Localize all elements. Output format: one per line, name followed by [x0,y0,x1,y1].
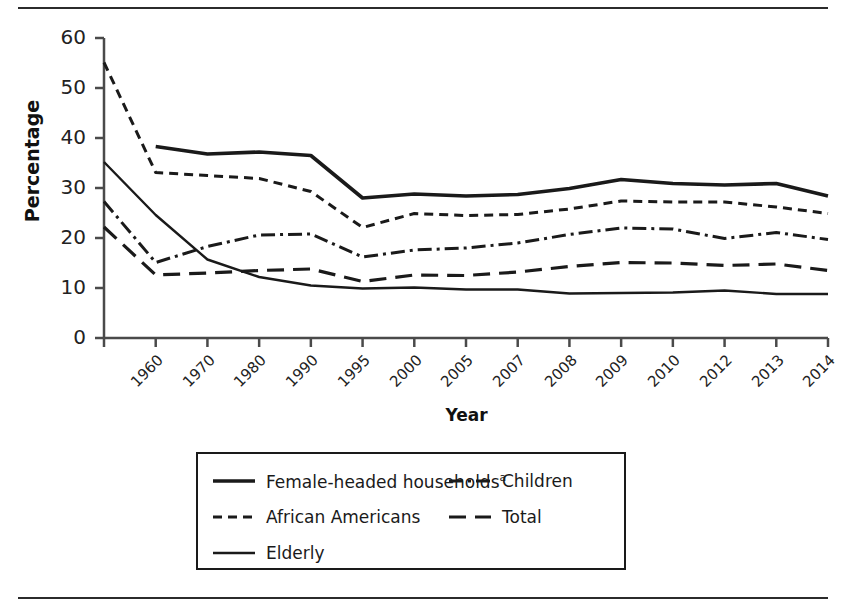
axis-layer [95,38,828,347]
series-layer [104,63,828,295]
legend-entry[interactable]: Children [448,468,573,494]
chart-legend: Female-headed householdsaAfrican America… [196,452,626,570]
legend-entry[interactable]: Elderly [212,540,325,566]
y-tick-label: 10 [46,277,86,297]
series-line-children [104,202,828,263]
y-tick-label: 50 [46,77,86,97]
legend-label: Total [502,507,542,527]
y-tick-label: 20 [46,227,86,247]
y-tick-label: 60 [46,27,86,47]
legend-swatch-dash-dot [448,472,492,490]
legend-label: Children [502,471,573,491]
legend-swatch-solid-thin [212,544,256,562]
line-chart-figure: Percentage Year 0102030405060 1960197019… [0,0,845,610]
legend-swatch-long-dash [448,508,492,526]
legend-label: Elderly [266,543,325,563]
legend-label: African Americans [266,507,420,527]
series-line-total [104,227,828,282]
series-line-african-americans [104,63,828,228]
y-axis-title: Percentage [21,81,43,241]
legend-grid: Female-headed householdsaAfrican America… [198,454,624,568]
legend-entry[interactable]: African Americans [212,504,420,530]
series-line-female-headed-households [156,147,828,199]
legend-swatch-dashed [212,508,256,526]
series-line-elderly [104,162,828,294]
legend-swatch-solid-thick [212,472,256,490]
y-tick-label: 40 [46,127,86,147]
x-axis-title: Year [104,405,829,425]
y-tick-label: 30 [46,177,86,197]
y-tick-label: 0 [46,327,86,347]
legend-entry[interactable]: Total [448,504,542,530]
